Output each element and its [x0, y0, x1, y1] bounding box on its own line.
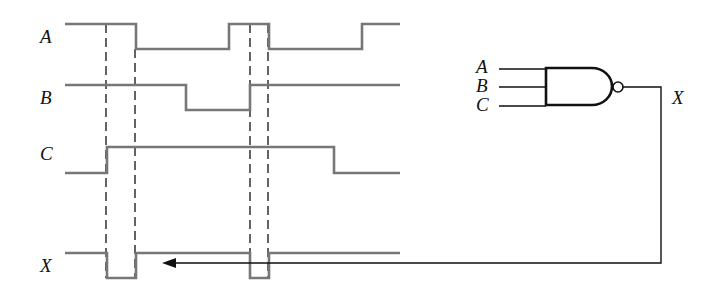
- signal-label-x: X: [39, 255, 53, 276]
- nand-gate: [162, 68, 661, 268]
- dashed-markers: [106, 24, 268, 278]
- signal-label-c: C: [40, 143, 53, 164]
- gate-input-label-c: C: [476, 94, 489, 115]
- waveform-x: [65, 253, 400, 278]
- gate-output-label-x: X: [671, 87, 685, 108]
- gate-input-label-b: B: [476, 75, 488, 96]
- waveform-b: [65, 85, 400, 110]
- arrowhead-icon: [162, 258, 176, 268]
- signal-label-b: B: [40, 87, 52, 108]
- gate-input-label-a: A: [474, 56, 488, 77]
- inverter-bubble-icon: [613, 82, 623, 92]
- waveform-a: [65, 24, 400, 49]
- output-wire: [172, 87, 661, 263]
- signal-label-a: A: [38, 26, 52, 47]
- waveform-c: [65, 147, 400, 173]
- nand-timing-diagram: A B C X A B C X: [0, 0, 725, 300]
- nand-gate-body: [546, 68, 612, 105]
